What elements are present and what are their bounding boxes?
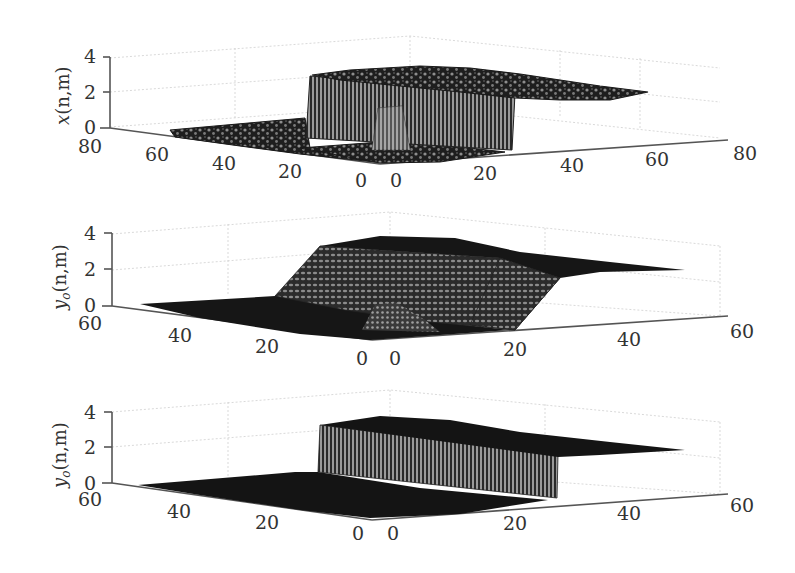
z-tick-4: 4 [84, 401, 96, 423]
figure: 4 2 0 x(n,m) 80 60 40 20 0 0 20 40 60 80 [0, 0, 795, 573]
left-tick-20: 20 [255, 335, 279, 357]
right-tick-20: 20 [473, 162, 497, 184]
right-tick-40: 40 [617, 502, 641, 524]
panel-middle: 4 2 0 yo(n,m) 60 40 20 0 0 20 40 60 [49, 212, 754, 369]
right-tick-60: 60 [730, 494, 754, 516]
left-tick-60: 60 [78, 488, 102, 510]
right-tick-20: 20 [503, 512, 527, 534]
left-tick-0: 0 [356, 347, 368, 369]
left-tick-80: 80 [78, 135, 102, 157]
right-tick-80: 80 [733, 142, 757, 164]
right-tick-20: 20 [503, 338, 527, 360]
left-tick-40: 40 [212, 152, 236, 174]
right-tick-0: 0 [389, 347, 401, 369]
left-tick-0: 0 [352, 522, 364, 544]
left-tick-60: 60 [78, 312, 102, 334]
z-axis-label: yo(n,m) [49, 422, 73, 489]
right-tick-40: 40 [560, 154, 584, 176]
right-tick-60: 60 [645, 148, 669, 170]
right-tick-60: 60 [730, 320, 754, 342]
left-tick-20: 20 [255, 511, 279, 533]
z-tick-2: 2 [84, 81, 96, 103]
left-tick-0: 0 [355, 169, 367, 191]
z-axis-label: yo(n,m) [49, 244, 73, 311]
left-tick-60: 60 [145, 143, 169, 165]
panel-top: 4 2 0 x(n,m) 80 60 40 20 0 0 20 40 60 80 [52, 36, 757, 191]
z-axis-label: x(n,m) [52, 66, 73, 125]
panel-bottom: 4 2 0 yo(n,m) 60 40 20 0 0 20 40 60 [49, 390, 754, 544]
right-tick-40: 40 [617, 328, 641, 350]
z-tick-2: 2 [84, 258, 96, 280]
z-tick-4: 4 [84, 222, 96, 244]
right-tick-0: 0 [390, 169, 402, 191]
right-tick-0: 0 [387, 522, 399, 544]
left-tick-20: 20 [278, 160, 302, 182]
z-tick-2: 2 [84, 436, 96, 458]
left-tick-40: 40 [168, 324, 192, 346]
left-tick-40: 40 [167, 500, 191, 522]
z-tick-4: 4 [84, 45, 96, 67]
